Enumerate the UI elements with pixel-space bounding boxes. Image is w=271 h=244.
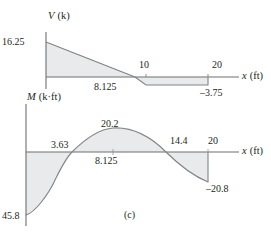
moment-end-station-label: 20 xyxy=(208,136,218,146)
moment-zero-crossing-right-label: 14.4 xyxy=(170,136,188,146)
moment-axis-x-units: (ft) xyxy=(250,145,263,156)
moment-start-value-label: 45.8 xyxy=(2,211,20,221)
moment-axis-y-units: (k·ft) xyxy=(39,91,61,102)
shear-negative-fill xyxy=(135,77,208,85)
beam-shear-moment-figure: V(k) 16.25 10 8.125 20 –3.75 x(ft) M(k·f… xyxy=(0,0,271,244)
shear-start-value-label: 16.25 xyxy=(2,37,25,47)
shear-axis-y-symbol: V xyxy=(48,10,54,21)
moment-peak-value-label: 20.2 xyxy=(101,119,119,129)
moment-axis-x-title: x(ft) xyxy=(242,146,263,157)
moment-zero-crossing-left-label: 3.63 xyxy=(51,140,69,150)
moment-negative-end-fill xyxy=(166,152,208,182)
moment-end-value-label: –20.8 xyxy=(206,184,229,194)
shear-end-value-label: –3.75 xyxy=(200,88,223,98)
moment-peak-station-label: 8.125 xyxy=(95,156,118,166)
shear-axis-x-title: x(ft) xyxy=(242,71,263,82)
shear-mid-station-label: 10 xyxy=(139,60,149,70)
moment-axis-y-title: M(k·ft) xyxy=(27,92,61,103)
shear-axis-y-title: V(k) xyxy=(48,11,70,22)
moment-axis-x-symbol: x xyxy=(242,145,247,156)
shear-axis-y-units: (k) xyxy=(57,10,69,21)
shear-end-station-label: 20 xyxy=(212,60,222,70)
shear-zero-crossing-label: 8.125 xyxy=(94,82,117,92)
figure-caption: (c) xyxy=(124,210,135,220)
diagram-canvas xyxy=(0,0,271,244)
shear-axis-x-units: (ft) xyxy=(250,70,263,81)
shear-axis-x-symbol: x xyxy=(242,70,247,81)
moment-diagram-group xyxy=(26,104,239,226)
moment-axis-y-symbol: M xyxy=(27,91,36,102)
